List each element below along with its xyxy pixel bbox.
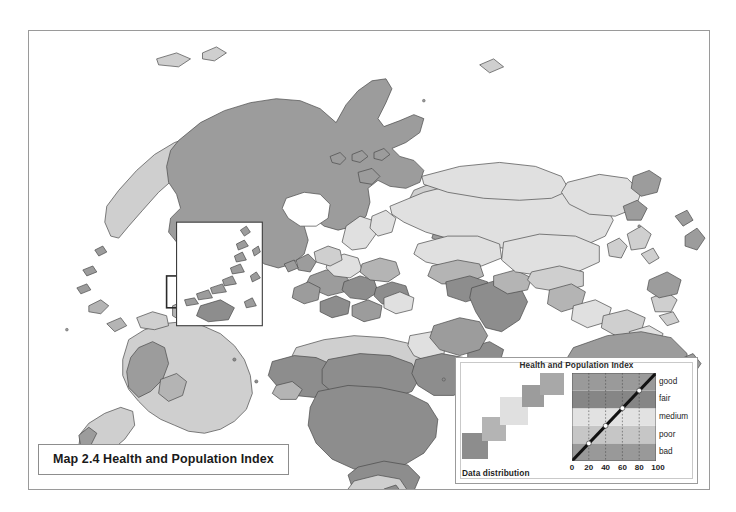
axis-tick-100: 100	[651, 463, 664, 472]
staircase-svg	[460, 373, 570, 461]
legend-class-labels: good fair medium poor bad	[659, 373, 699, 461]
ramp-svg	[572, 373, 656, 461]
data-distribution-label: Data distribution	[462, 468, 530, 478]
axis-tick-0: 0	[570, 463, 574, 472]
legend-label-good: good	[659, 377, 677, 386]
legend-label-medium: medium	[659, 412, 688, 421]
legend-label-poor: poor	[659, 430, 675, 439]
axis-tick-60: 60	[618, 463, 627, 472]
legend-title: Health and Population Index	[456, 361, 697, 370]
legend-label-fair: fair	[659, 394, 670, 403]
data-distribution-staircase	[460, 373, 570, 461]
axis-tick-80: 80	[635, 463, 644, 472]
legend-axis-ticks: 0 20 40 60 80 100	[568, 463, 668, 477]
map-page: .ln{stroke:#4a4a4a;stroke-width:.7;strok…	[0, 0, 736, 512]
legend-panel[interactable]: Health and Population Index Data distrib…	[455, 357, 698, 484]
index-ramp-chart	[572, 373, 656, 461]
map-title-box: Map 2.4 Health and Population Index	[38, 444, 289, 475]
caribbean-inset	[167, 222, 263, 326]
axis-tick-20: 20	[584, 463, 593, 472]
axis-tick-40: 40	[601, 463, 610, 472]
legend-label-bad: bad	[659, 447, 673, 456]
